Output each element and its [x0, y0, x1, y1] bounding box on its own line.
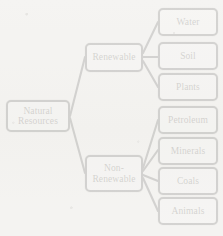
node-label: Renewable: [92, 52, 135, 62]
link-nonrenewable-coals: [143, 175, 158, 181]
node-plants[interactable]: Plants: [158, 73, 218, 101]
node-petroleum[interactable]: Petroleum: [158, 106, 218, 134]
link-renewable-plants: [143, 61, 158, 87]
node-label: Plants: [176, 82, 200, 92]
link-renewable-water: [143, 22, 158, 53]
natural-resources-diagram: Natural Resources Renewable Non- Renewab…: [0, 0, 223, 236]
node-label: Natural Resources: [18, 106, 58, 127]
node-water[interactable]: Water: [158, 8, 218, 36]
node-label: Soil: [180, 51, 196, 61]
node-label: Coals: [177, 176, 199, 186]
node-label: Minerals: [171, 146, 206, 156]
link-nonrenewable-animals: [143, 178, 158, 211]
node-label: Water: [177, 17, 200, 27]
node-non-renewable[interactable]: Non- Renewable: [85, 155, 143, 192]
node-coals[interactable]: Coals: [158, 167, 218, 195]
node-soil[interactable]: Soil: [158, 42, 218, 70]
node-label: Petroleum: [168, 115, 208, 125]
node-animals[interactable]: Animals: [158, 197, 218, 225]
link-root-renewable: [70, 57, 85, 116]
node-minerals[interactable]: Minerals: [158, 137, 218, 165]
node-natural-resources[interactable]: Natural Resources: [6, 100, 70, 132]
node-renewable[interactable]: Renewable: [85, 43, 143, 72]
link-root-nonrenewable: [70, 118, 85, 173]
node-label: Non- Renewable: [92, 163, 135, 184]
node-label: Animals: [172, 206, 205, 216]
